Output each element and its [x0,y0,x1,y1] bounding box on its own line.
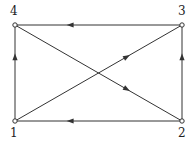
node-3 [180,23,184,27]
edges-group [15,25,182,121]
node-label-4: 4 [10,5,18,17]
arrowhead-icon [123,55,130,61]
node-1 [13,119,17,123]
node-label-2: 2 [178,127,186,139]
node-label-3: 3 [178,5,186,17]
arrowhead-icon [123,85,130,91]
node-2 [180,119,184,123]
arrowhead-icon [67,118,74,123]
directed-graph [0,0,195,145]
arrowhead-icon [12,53,17,60]
arrowhead-icon [179,53,184,60]
node-label-1: 1 [10,127,18,139]
node-4 [13,23,17,27]
arrowhead-icon [67,22,74,27]
